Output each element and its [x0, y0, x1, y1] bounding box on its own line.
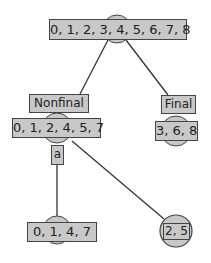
edge-root-nonfinal: [80, 40, 108, 94]
right-leaf-node-set[interactable]: 2, 5: [163, 223, 190, 240]
left-leaf-node-set[interactable]: 0, 1, 4, 7: [27, 222, 97, 242]
nonfinal-node-set[interactable]: 0, 1, 2, 4, 5, 7: [12, 118, 101, 138]
edge-label-a: a: [51, 145, 64, 165]
edge-root-final: [126, 40, 168, 95]
final-node-set[interactable]: 3, 6, 8: [155, 121, 198, 141]
nonfinal-node-label: Nonfinal: [29, 94, 89, 113]
root-node-set[interactable]: 0, 1, 2, 3, 4, 5, 6, 7, 8: [49, 19, 187, 40]
edge-nonfinal-right: [72, 141, 164, 219]
final-node-label: Final: [161, 95, 196, 114]
